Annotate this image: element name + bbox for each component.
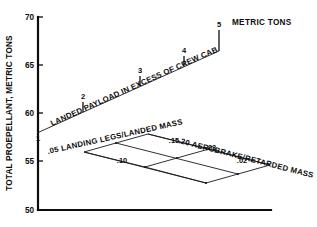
y-axis-title-group: TOTAL PROEPELLANT, METRIC TONS — [5, 35, 14, 191]
y-tick-labels: 70 65 60 55 50 — [25, 13, 35, 215]
payload-tick-label-2: 2 — [81, 92, 85, 101]
aerobrake-axis-label: .20 AEROBRAKE/RETARDED MASS — [177, 136, 314, 180]
payload-tick-label-3: 3 — [138, 66, 142, 75]
grid-node-b — [144, 166, 146, 168]
payload-tick-label-4: 4 — [182, 46, 187, 55]
y-tick-label-65: 65 — [25, 61, 35, 70]
payload-scale-label: LANDED PAYLOAD IN EXCESS OF CREW CAB — [49, 45, 219, 128]
payload-tick-label-1: 1 — [36, 134, 41, 143]
y-tick-label-55: 55 — [25, 157, 35, 166]
landing-legs-axis-label: .05 LANDING LEGS/LANDED MASS — [46, 117, 183, 156]
grid-node-a — [115, 142, 117, 144]
grid-edge-left-lower — [84, 152, 145, 167]
y-tick-label-50: 50 — [25, 206, 35, 215]
y-tick-label-70: 70 — [25, 13, 35, 22]
y-tick-label-60: 60 — [25, 109, 35, 118]
payload-tick-label-5: 5 — [217, 20, 222, 29]
metric-tons-units-label: METRIC TONS — [232, 18, 292, 27]
grid-node-e — [237, 173, 239, 175]
chart-canvas: 70 65 60 55 50 TOTAL PROEPELLANT, METRIC… — [0, 0, 317, 227]
nomograph-grid-group: .10 .15 .03 .02 .05 LANDING LEGS/LANDED … — [46, 117, 314, 184]
nomograph-chart: 70 65 60 55 50 TOTAL PROEPELLANT, METRIC… — [0, 0, 317, 227]
grid-node-f — [205, 182, 207, 184]
y-axis-title: TOTAL PROEPELLANT, METRIC TONS — [5, 35, 14, 191]
grid-node-c — [176, 157, 178, 159]
grid-value-label-10: .10 — [117, 156, 127, 165]
grid-edge-left-lower-2 — [145, 167, 206, 183]
